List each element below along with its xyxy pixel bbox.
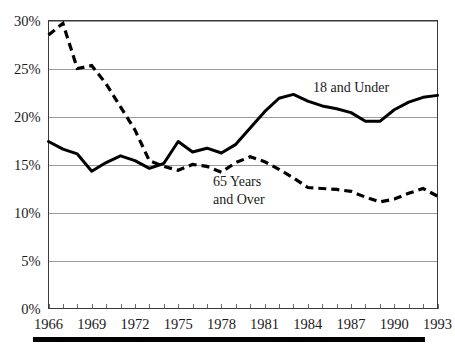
- y-tick-label-0pct: 0%: [21, 301, 40, 317]
- y-tick-label-25pct: 25%: [14, 61, 41, 77]
- footer-divider-rule: [33, 337, 425, 342]
- x-tick-label-1978: 1978: [207, 316, 236, 332]
- series-label-65-years-line2: and Over: [213, 192, 265, 207]
- line-chart: 0%5%10%15%20%25%30% 19661969197219751978…: [0, 0, 455, 351]
- y-tick-label-5pct: 5%: [21, 253, 40, 269]
- x-tick-label-1987: 1987: [337, 316, 366, 332]
- series-label-18-and-under: 18 and Under: [313, 80, 390, 95]
- x-tick-label-1969: 1969: [77, 316, 106, 332]
- chart-container: 0%5%10%15%20%25%30% 19661969197219751978…: [0, 0, 455, 351]
- y-tick-label-30pct: 30%: [14, 13, 41, 29]
- x-tick-label-1990: 1990: [380, 316, 409, 332]
- x-tick-label-1993: 1993: [423, 316, 452, 332]
- x-tick-label-1981: 1981: [250, 316, 279, 332]
- y-tick-label-10pct: 10%: [14, 205, 41, 221]
- x-tick-label-1984: 1984: [293, 316, 323, 332]
- x-tick-label-1972: 1972: [120, 316, 149, 332]
- x-tick-label-1975: 1975: [164, 316, 193, 332]
- x-tick-label-1966: 1966: [34, 316, 63, 332]
- series-label-65-years-line1: 65 Years: [213, 174, 261, 189]
- y-tick-label-20pct: 20%: [14, 109, 41, 125]
- y-tick-label-15pct: 15%: [14, 157, 41, 173]
